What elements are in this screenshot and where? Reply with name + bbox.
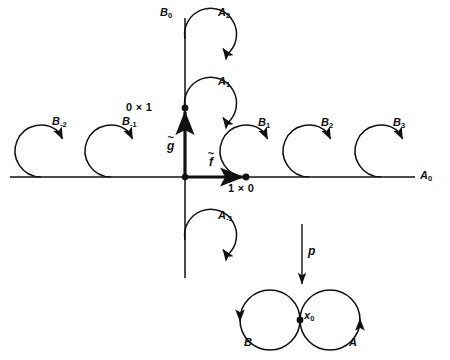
vector-label-f-tilde: ~f — [209, 156, 213, 168]
axis-label-A0: A0 — [420, 170, 432, 181]
tilde-accent-g: ~ — [167, 132, 173, 143]
marked-points — [182, 105, 250, 181]
circle-B-3 — [355, 125, 402, 177]
point-1x0 — [243, 174, 250, 181]
orientation-arrow — [264, 133, 267, 139]
circle-label-B-1: B1 — [258, 117, 270, 128]
orientation-arrow — [399, 133, 402, 139]
circle-label-A-1: A1 — [218, 76, 230, 87]
basepoint-label-x0: x0 — [304, 310, 314, 321]
loop-label-B: B — [244, 337, 252, 348]
base-space-wedge — [240, 290, 360, 350]
diagram-canvas — [0, 0, 450, 360]
circle-label-B-3: B3 — [393, 117, 405, 128]
point-0x1 — [182, 105, 189, 112]
axis-label-B0: B0 — [160, 7, 172, 18]
circle-B-1 — [220, 125, 267, 177]
circle-B-minus2 — [15, 125, 62, 177]
covering-space-diagram: B0 A0 B-2 B-1 B1 B2 B3 A2 A1 A-1 0 × 1 1… — [0, 0, 450, 360]
circle-label-B-minus1: B-1 — [122, 116, 137, 127]
tilde-accent-f: ~ — [208, 148, 214, 159]
origin-vectors — [185, 112, 243, 177]
circle-label-B-minus2: B-2 — [52, 116, 67, 127]
loop-label-A: A — [349, 337, 357, 348]
basepoint-x0 — [297, 317, 304, 324]
orientation-arrow — [327, 133, 330, 139]
vector-label-g-tilde: ~g — [167, 140, 174, 152]
orientation-arrow — [129, 133, 132, 139]
point-label-1x0: 1 × 0 — [228, 183, 254, 194]
circle-B-minus1 — [85, 125, 132, 177]
circle-label-A-2: A2 — [218, 7, 230, 18]
orientation-arrow — [223, 49, 227, 55]
circle-label-B-2: B2 — [321, 117, 333, 128]
projection-label-p: p — [308, 245, 315, 257]
point-label-0x1: 0 × 1 — [126, 102, 152, 113]
circle-B-2 — [283, 125, 330, 177]
orientation-arrow — [59, 133, 62, 139]
point-origin — [182, 174, 188, 180]
orientation-arrow — [223, 250, 227, 256]
circle-label-A-minus1: A-1 — [218, 210, 233, 221]
orientation-arrow — [223, 118, 227, 124]
